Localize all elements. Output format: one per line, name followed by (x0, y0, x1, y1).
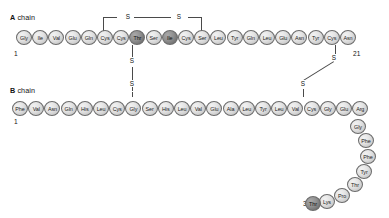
a-chain-end-number: 21 (353, 50, 360, 57)
residue-a-17: Glu (275, 30, 291, 45)
residue-a-20: Cys (324, 30, 340, 45)
residue-b-28: Pro (334, 188, 350, 203)
b-chain-label: B chain (10, 86, 35, 95)
residue-a-10: Ile (162, 30, 178, 45)
residue-a-21: Asn (340, 30, 356, 45)
residue-a-11: Cys (178, 30, 194, 45)
residue-b-30: Thr (305, 196, 321, 211)
a-chain-label: A chain (10, 13, 35, 22)
residue-b-9: Ser (142, 101, 158, 116)
residue-b-4: Gln (61, 101, 77, 116)
residue-a-12: Ser (194, 30, 210, 45)
residue-a-15: Gln (243, 30, 259, 45)
bond-a7-b7-middle (132, 67, 133, 91)
residue-b-29: Lys (319, 194, 335, 209)
residue-b-22: Arg (352, 101, 368, 116)
residue-a-6: Cys (97, 30, 113, 45)
residue-a-13: Leu (210, 30, 226, 45)
sulfur-label-b19: S (300, 80, 306, 87)
bond-a6-a11-left-arm (103, 17, 117, 18)
residue-b-19: Cys (304, 101, 320, 116)
residue-b-5: His (77, 101, 93, 116)
residue-a-1: Gly (16, 30, 32, 45)
residue-a-9: Ser (146, 30, 162, 45)
residue-b-14: Ala (223, 101, 239, 116)
residue-a-2: Ile (32, 30, 48, 45)
bond-a20-b19-diagonal (302, 61, 334, 81)
residue-b-1: Phe (12, 101, 28, 116)
residue-b-23: Gly (350, 119, 366, 134)
residue-a-8: Thr (129, 30, 145, 45)
residue-b-15: Leu (239, 101, 255, 116)
bond-a6-a11-top-arm (134, 17, 171, 18)
residue-b-11: Leu (174, 101, 190, 116)
residue-a-5: Gln (81, 30, 97, 45)
bond-a7-b7-lower (132, 92, 133, 97)
residue-a-7: Cys (113, 30, 129, 45)
residue-a-4: Glu (65, 30, 81, 45)
residue-a-19: Tyr (308, 30, 324, 45)
bond-a20-b19-lower-leg (303, 89, 304, 97)
sulfur-label-a6: S (125, 13, 131, 20)
sulfur-label-a20: S (331, 54, 337, 61)
residue-b-16: Tyr (255, 101, 271, 116)
residue-b-3: Asn (44, 101, 60, 116)
a-chain-start-number: 1 (14, 50, 18, 57)
residue-b-2: Val (28, 101, 44, 116)
residue-b-20: Gly (320, 101, 336, 116)
residue-b-21: Glu (336, 101, 352, 116)
bond-a6-a11-left-leg (103, 17, 104, 31)
residue-a-14: Tyr (227, 30, 243, 45)
sulfur-label-a7: S (129, 57, 135, 64)
b-chain-start-number: 1 (14, 118, 18, 125)
residue-b-6: Leu (93, 101, 109, 116)
insulin-structure-diagram: A chain 1 21 B chain 1 30 S S S S S S Gl… (0, 0, 389, 218)
residue-a-18: Asn (291, 30, 307, 45)
residue-b-7: Cys (109, 101, 125, 116)
residue-b-12: Val (190, 101, 206, 116)
residue-b-17: Leu (271, 101, 287, 116)
residue-b-8: Gly (125, 101, 141, 116)
residue-b-18: Val (287, 101, 303, 116)
bond-a6-a11-right-leg (201, 17, 202, 31)
b-chain-label-word: chain (15, 86, 35, 95)
residue-b-10: His (158, 101, 174, 116)
residue-b-25: Phe (360, 149, 376, 164)
sulfur-label-a11: S (176, 13, 182, 20)
sulfur-label-b7: S (129, 80, 135, 87)
a-chain-label-word: chain (15, 13, 35, 22)
residue-b-13: Glu (206, 101, 222, 116)
residue-b-24: Phe (358, 133, 374, 148)
residue-b-27: Thr (347, 177, 363, 192)
bond-a6-a11-right-arm (188, 17, 202, 18)
residue-a-16: Leu (259, 30, 275, 45)
residue-a-3: Val (48, 30, 64, 45)
